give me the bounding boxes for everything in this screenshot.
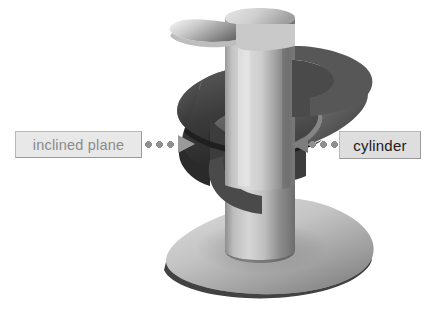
arrow-right-icon [178,135,195,153]
callout-inclined-plane-label: inclined plane [33,137,124,153]
figure-canvas: inclined plane cylinder [0,0,440,311]
callout-cylinder-label: cylinder [353,137,406,154]
arrow-left-icon [291,135,308,153]
callout-cylinder[interactable]: cylinder [339,131,421,159]
callout-inclined-plane[interactable]: inclined plane [15,131,142,158]
leader-line-cylinder [307,141,340,148]
